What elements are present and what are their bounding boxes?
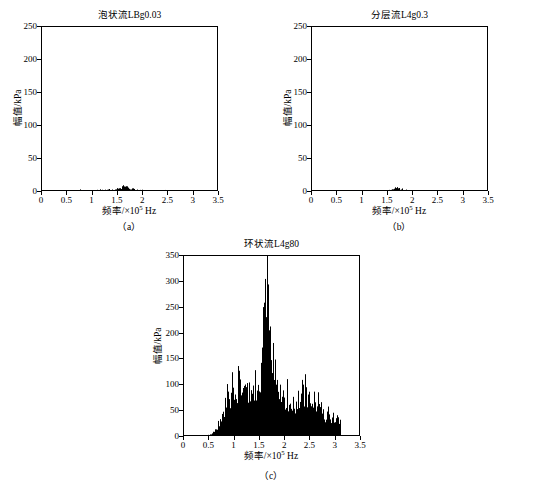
panel-a-y-tick-mark: [37, 158, 41, 159]
panel-c-x-tick-mark: [208, 436, 209, 440]
panel-c-x-axis-label-prefix: 频率/×10: [244, 451, 282, 461]
panel-b-x-tick-mark: [336, 191, 337, 195]
panel-a-y-tick-label: 250: [15, 22, 37, 31]
panel-b-x-tick-label: 0.5: [324, 196, 348, 205]
panel-c-y-tick-label: 300: [157, 276, 179, 285]
panel-a-caption: （a）: [117, 222, 141, 233]
panel-a-y-tick-label: 50: [15, 154, 37, 163]
panel-b-caption: （b）: [387, 222, 412, 233]
panel-a-x-tick-mark: [218, 191, 219, 195]
panel-c-caption: （c）: [259, 471, 283, 482]
panel-c-x-tick-mark: [360, 436, 361, 440]
panel-a-y-tick-mark: [37, 92, 41, 93]
panel-c-x-tick-label: 3: [323, 441, 347, 450]
panel-a-x-tick-label: 1: [80, 196, 104, 205]
panel-c-y-tick-label: 250: [157, 302, 179, 311]
figure-root: 泡状流LBg0.03 05010015020025000.511.522.533…: [0, 0, 541, 497]
panel-b-x-tick-label: 2.5: [425, 196, 449, 205]
panel-a-x-axis-label-suffix: Hz: [143, 206, 156, 216]
panel-c-x-tick-label: 0: [171, 441, 195, 450]
panel-c-y-tick-mark: [179, 384, 183, 385]
panel-b-x-tick-label: 0: [299, 196, 323, 205]
panel-a-x-tick-mark: [167, 191, 168, 195]
panel-b-x-tick-mark: [437, 191, 438, 195]
panel-b-x-tick-mark: [412, 191, 413, 195]
panel-b-x-tick-mark: [311, 191, 312, 195]
panel-a: 泡状流LBg0.03 05010015020025000.511.522.533…: [0, 0, 270, 240]
panel-c-y-tick-mark: [179, 307, 183, 308]
panel-c-y-tick-label: 50: [157, 406, 179, 415]
panel-a-x-tick-label: 2.5: [155, 196, 179, 205]
panel-b-x-tick-label: 1.5: [375, 196, 399, 205]
panel-a-y-tick-mark: [37, 125, 41, 126]
panel-a-x-tick-mark: [117, 191, 118, 195]
panel-a-y-tick-mark: [37, 59, 41, 60]
panel-b-y-tick-mark: [307, 59, 311, 60]
panel-a-title: 泡状流LBg0.03: [41, 9, 218, 21]
panel-b-x-tick-label: 3.5: [476, 196, 500, 205]
panel-c-y-tick-label: 0: [157, 432, 179, 441]
panel-c-y-tick-label: 100: [157, 380, 179, 389]
panel-a-x-tick-mark: [92, 191, 93, 195]
panel-a-x-tick-label: 0.5: [54, 196, 78, 205]
panel-a-y-axis-label: 幅值/kPa: [13, 90, 24, 127]
panel-b-spectrum: [312, 27, 488, 191]
panel-c-y-tick-mark: [179, 281, 183, 282]
panel-b-plot-area: [311, 26, 488, 191]
panel-a-x-tick-label: 3.5: [206, 196, 230, 205]
panel-b-y-tick-mark: [307, 158, 311, 159]
panel-b-x-tick-label: 3: [451, 196, 475, 205]
panel-c-x-axis-label: 频率/×105 Hz: [244, 451, 298, 462]
panel-b-y-tick-label: 200: [285, 55, 307, 64]
panel-c-y-tick-mark: [179, 358, 183, 359]
panel-b-x-tick-mark: [488, 191, 489, 195]
panel-a-spectrum: [42, 27, 218, 191]
panel-c-y-tick-label: 350: [157, 251, 179, 260]
panel-c-y-tick-mark: [179, 410, 183, 411]
panel-a-y-tick-mark: [37, 26, 41, 27]
panel-c-x-tick-mark: [259, 436, 260, 440]
panel-c-y-axis-label: 幅值/kPa: [153, 328, 164, 365]
panel-c-x-tick-mark: [309, 436, 310, 440]
panel-c-title: 环状流L4g80: [183, 238, 360, 250]
panel-c-y-tick-mark: [179, 255, 183, 256]
panel-b-y-axis-label: 幅值/kPa: [283, 90, 294, 127]
panel-b-y-tick-mark: [307, 26, 311, 27]
panel-c: 环状流L4g80 05010015020025030035000.511.522…: [130, 236, 410, 497]
panel-b-x-tick-mark: [362, 191, 363, 195]
panel-a-x-tick-label: 1.5: [105, 196, 129, 205]
panel-c-plot-area: [183, 255, 360, 436]
panel-b-y-tick-label: 250: [285, 22, 307, 31]
panel-a-x-axis-label-prefix: 频率/×10: [102, 206, 140, 216]
panel-c-x-tick-mark: [335, 436, 336, 440]
panel-b-title: 分层流L4g0.3: [311, 9, 488, 21]
panel-b-y-tick-mark: [307, 92, 311, 93]
panel-b-x-tick-label: 1: [350, 196, 374, 205]
panel-c-x-tick-label: 0.5: [196, 441, 220, 450]
panel-c-x-tick-label: 2.5: [297, 441, 321, 450]
panel-c-x-axis-label-suffix: Hz: [285, 451, 298, 461]
panel-a-plot-area: [41, 26, 218, 191]
panel-a-x-tick-label: 3: [181, 196, 205, 205]
panel-c-x-tick-mark: [183, 436, 184, 440]
panel-c-x-tick-label: 1: [222, 441, 246, 450]
panel-c-y-tick-mark: [179, 333, 183, 334]
panel-a-x-tick-mark: [142, 191, 143, 195]
panel-b: 分层流L4g0.3 05010015020025000.511.522.533.…: [271, 0, 541, 240]
panel-b-x-axis-label-suffix: Hz: [413, 206, 426, 216]
panel-c-x-tick-mark: [234, 436, 235, 440]
panel-c-x-tick-label: 3.5: [348, 441, 372, 450]
panel-b-x-tick-mark: [387, 191, 388, 195]
panel-b-x-axis-label-prefix: 频率/×10: [372, 206, 410, 216]
panel-a-x-axis-label: 频率/×105 Hz: [102, 206, 156, 217]
panel-c-spectrum: [184, 256, 360, 436]
panel-a-x-tick-mark: [66, 191, 67, 195]
panel-a-x-tick-mark: [41, 191, 42, 195]
panel-b-y-tick-mark: [307, 125, 311, 126]
panel-a-y-tick-label: 0: [15, 187, 37, 196]
panel-b-x-axis-label: 频率/×105 Hz: [372, 206, 426, 217]
panel-b-y-tick-label: 0: [285, 187, 307, 196]
panel-b-y-tick-label: 50: [285, 154, 307, 163]
panel-c-x-tick-mark: [284, 436, 285, 440]
panel-a-y-tick-label: 200: [15, 55, 37, 64]
